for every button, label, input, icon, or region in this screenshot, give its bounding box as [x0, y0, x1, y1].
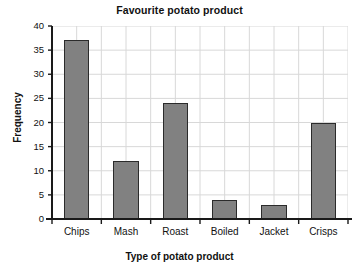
- chart-title: Favourite potato product: [0, 4, 359, 16]
- plot-area: [52, 26, 348, 219]
- x-tick-label-chips: Chips: [52, 226, 101, 237]
- x-tick-label-roast: Roast: [151, 226, 200, 237]
- bar-chart: Favourite potato product Frequency Type …: [0, 0, 359, 271]
- y-tick-label: 25: [18, 93, 44, 103]
- y-tick-label: 40: [18, 21, 44, 31]
- bar-crisps: [311, 123, 337, 220]
- bars-layer: [52, 26, 348, 219]
- y-tick-label: 30: [18, 69, 44, 79]
- x-tick-label-boiled: Boiled: [200, 226, 249, 237]
- y-tick-label: 5: [18, 190, 44, 200]
- x-tick-label-mash: Mash: [101, 226, 150, 237]
- bar-jacket: [261, 205, 287, 219]
- bar-roast: [163, 103, 189, 219]
- bar-chips: [64, 40, 90, 219]
- y-tick-label: 15: [18, 142, 44, 152]
- x-tick-label-jacket: Jacket: [249, 226, 298, 237]
- y-tick-label: 10: [18, 166, 44, 176]
- y-tick-label: 35: [18, 45, 44, 55]
- x-axis-title: Type of potato product: [0, 251, 359, 262]
- y-tick-label: 0: [18, 214, 44, 224]
- x-tick-label-crisps: Crisps: [299, 226, 348, 237]
- bar-boiled: [212, 200, 238, 219]
- y-tick-label: 20: [18, 118, 44, 128]
- bar-mash: [113, 161, 139, 219]
